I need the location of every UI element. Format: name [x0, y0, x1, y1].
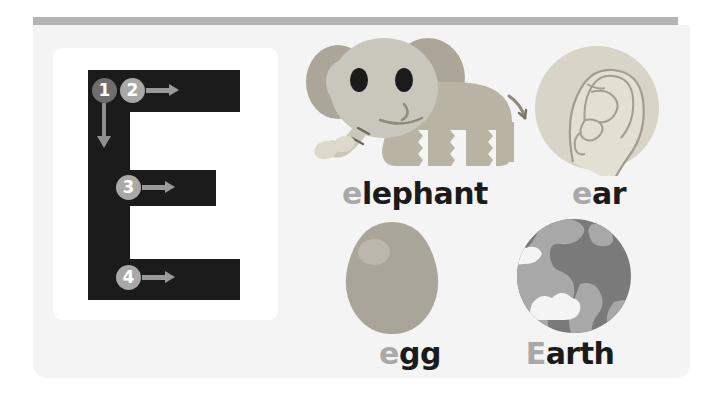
caption-elephant-highlight: e [342, 176, 362, 211]
word-cell-ear[interactable]: ear [524, 36, 674, 211]
caption-ear-highlight: e [572, 176, 592, 211]
stroke-marker-1: 1 [92, 78, 117, 103]
egg-icon [330, 218, 490, 336]
caption-elephant-rest: lephant [362, 176, 488, 211]
stroke-number-3: 3 [116, 175, 141, 200]
flashcard-page: 1 2 3 4 [0, 0, 715, 395]
caption-egg-rest: gg [399, 336, 441, 371]
word-cell-earth[interactable]: Earth [480, 218, 660, 368]
stroke-number-1: 1 [92, 78, 117, 103]
elephant-icon [300, 36, 530, 176]
stroke-number-2: 2 [120, 78, 145, 103]
caption-egg: egg [330, 336, 490, 371]
letter-practice-card[interactable]: 1 2 3 4 [53, 48, 278, 320]
stroke-arrow-down-1 [102, 103, 106, 137]
caption-earth-rest: arth [546, 336, 615, 371]
caption-earth-highlight: E [526, 336, 546, 371]
stroke-marker-4: 4 [116, 265, 166, 290]
caption-egg-highlight: e [379, 336, 399, 371]
word-cell-elephant[interactable]: elephant [300, 36, 530, 211]
ear-icon [529, 36, 679, 176]
word-cell-egg[interactable]: egg [330, 218, 490, 368]
stroke-marker-3: 3 [116, 175, 166, 200]
caption-ear: ear [524, 176, 674, 211]
earth-icon [480, 218, 660, 336]
stroke-number-4: 4 [116, 265, 141, 290]
stroke-arrow-right-4 [142, 275, 166, 280]
stroke-marker-2: 2 [120, 78, 170, 103]
stroke-arrow-right-3 [142, 185, 166, 190]
caption-elephant: elephant [300, 176, 530, 211]
letter-e-glyph: 1 2 3 4 [88, 70, 243, 300]
stroke-arrow-right-2 [146, 88, 170, 93]
caption-ear-rest: ar [592, 176, 626, 211]
caption-earth: Earth [480, 336, 660, 371]
